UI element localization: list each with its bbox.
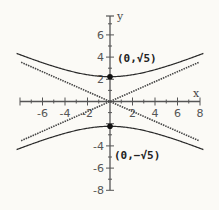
y-tick-label: -4 [93,140,104,153]
axes: -6-4-22468642-4-6-8 [20,16,204,197]
vertex-dot [107,124,113,130]
y-tick-label: 4 [97,51,104,64]
x-tick-label: 2 [129,107,136,120]
y-tick-label: 6 [97,29,104,42]
y-tick-label: -6 [93,162,104,175]
y-tick-label: -8 [93,184,104,197]
x-tick-label: 6 [174,107,181,120]
bottom-vertex-label: (0,−√5) [114,149,160,162]
x-tick-label: -4 [60,107,71,120]
x-axis-label: x [193,87,200,100]
top-vertex-label: (0,√5) [117,52,157,65]
plot-area: -6-4-22468642-4-6-8 x y (0,√5) (0,−√5) [0,0,219,210]
x-tick-label: -6 [37,107,48,120]
y-tick-label: 2 [97,73,104,86]
y-axis-label: y [116,10,124,23]
hyperbola-graph: -6-4-22468642-4-6-8 x y (0,√5) (0,−√5) [0,0,219,210]
vertex-dot [107,74,113,80]
x-tick-label: 4 [152,107,159,120]
x-tick-label: 8 [197,107,204,120]
